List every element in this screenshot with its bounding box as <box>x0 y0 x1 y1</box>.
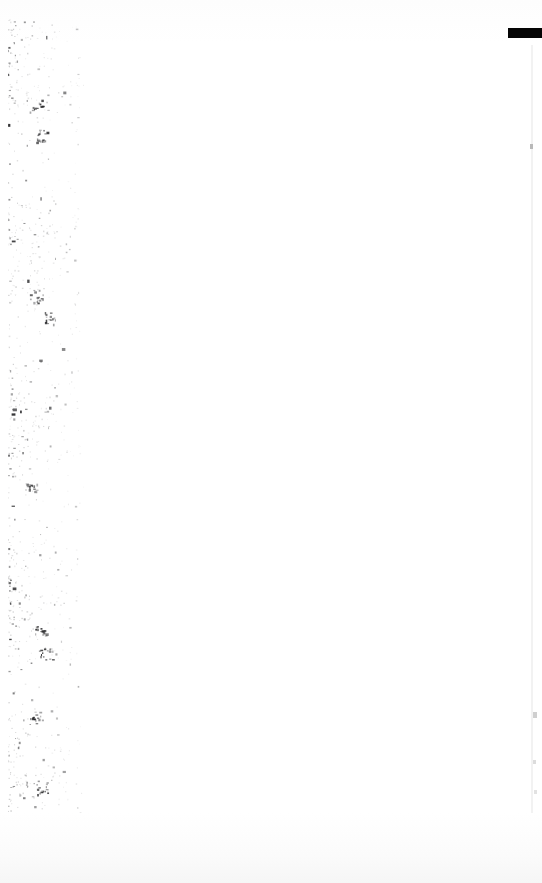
paper-tone-top <box>0 0 542 44</box>
right-edge-mark-bottom <box>534 790 537 794</box>
right-edge-mark-lower <box>533 760 536 764</box>
redaction-bar <box>508 28 542 38</box>
binding-edge-speckle <box>6 18 84 872</box>
right-edge-mark-upper <box>530 144 533 149</box>
page-body-text <box>90 45 520 845</box>
page-label <box>0 0 1 1</box>
scanned-document-page <box>0 0 542 883</box>
right-page-edge-line <box>531 45 533 845</box>
right-edge-mark-mid <box>533 712 537 718</box>
